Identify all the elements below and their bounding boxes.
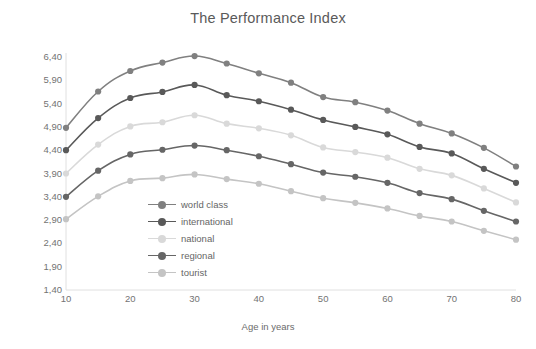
data-point	[352, 200, 358, 206]
data-point	[95, 168, 101, 174]
data-point	[416, 190, 422, 196]
data-point	[352, 99, 358, 105]
data-point	[288, 132, 294, 138]
data-point	[256, 98, 262, 104]
data-point	[95, 88, 101, 94]
data-point	[95, 193, 101, 199]
data-point	[481, 208, 487, 214]
data-point	[481, 145, 487, 151]
data-point	[63, 147, 69, 153]
data-point	[256, 125, 262, 131]
series-tourist	[63, 171, 519, 242]
data-point	[159, 175, 165, 181]
data-point	[288, 161, 294, 167]
data-point	[513, 180, 519, 186]
data-point	[127, 123, 133, 129]
legend-swatch-icon	[148, 199, 176, 211]
data-point	[224, 147, 230, 153]
data-point	[191, 171, 197, 177]
data-point	[513, 218, 519, 224]
data-point	[481, 166, 487, 172]
legend-label: regional	[176, 250, 215, 261]
legend-item-international[interactable]: international	[148, 213, 233, 230]
legend-label: world class	[176, 199, 228, 210]
data-point	[384, 155, 390, 161]
data-point	[320, 117, 326, 123]
legend-swatch-icon	[148, 233, 176, 245]
legend-swatch-icon	[148, 250, 176, 262]
data-point	[256, 70, 262, 76]
data-point	[384, 180, 390, 186]
legend-dot-icon	[158, 269, 166, 277]
legend-label: tourist	[176, 267, 207, 278]
data-point	[481, 228, 487, 234]
data-point	[513, 163, 519, 169]
data-point	[416, 121, 422, 127]
data-point	[288, 80, 294, 86]
legend-dot-icon	[158, 218, 166, 226]
data-point	[384, 131, 390, 137]
data-point	[320, 169, 326, 175]
data-point	[513, 237, 519, 243]
data-point	[224, 121, 230, 127]
data-point	[224, 92, 230, 98]
data-point	[449, 172, 455, 178]
performance-index-chart: The Performance Index FTP in watts/kg Ag…	[0, 0, 536, 349]
data-point	[191, 142, 197, 148]
data-point	[95, 142, 101, 148]
data-point	[159, 59, 165, 65]
data-point	[191, 53, 197, 59]
data-point	[416, 166, 422, 172]
legend-item-national[interactable]: national	[148, 230, 233, 247]
data-point	[288, 188, 294, 194]
legend-label: international	[176, 216, 233, 227]
data-point	[63, 194, 69, 200]
data-point	[224, 60, 230, 66]
data-point	[384, 107, 390, 113]
data-point	[127, 151, 133, 157]
legend-dot-icon	[158, 201, 166, 209]
legend-swatch-icon	[148, 216, 176, 228]
legend-dot-icon	[158, 252, 166, 260]
data-point	[449, 130, 455, 136]
data-point	[224, 176, 230, 182]
data-point	[449, 218, 455, 224]
data-point	[352, 124, 358, 130]
data-point	[288, 107, 294, 113]
data-point	[449, 150, 455, 156]
data-point	[384, 205, 390, 211]
data-point	[63, 216, 69, 222]
legend-item-regional[interactable]: regional	[148, 247, 233, 264]
data-point	[352, 149, 358, 155]
legend-item-world-class[interactable]: world class	[148, 196, 233, 213]
legend-dot-icon	[158, 235, 166, 243]
series-line	[66, 146, 516, 222]
data-point	[320, 94, 326, 100]
data-point	[416, 213, 422, 219]
data-point	[256, 181, 262, 187]
data-point	[256, 153, 262, 159]
data-point	[191, 82, 197, 88]
series-line	[66, 174, 516, 239]
data-point	[320, 195, 326, 201]
plot-area	[0, 0, 536, 349]
data-point	[513, 199, 519, 205]
data-point	[127, 68, 133, 74]
data-point	[416, 144, 422, 150]
data-point	[449, 196, 455, 202]
data-point	[127, 95, 133, 101]
data-point	[95, 115, 101, 121]
data-point	[159, 147, 165, 153]
data-point	[63, 170, 69, 176]
data-point	[320, 144, 326, 150]
chart-legend: world classinternationalnationalregional…	[148, 196, 233, 281]
legend-item-tourist[interactable]: tourist	[148, 264, 233, 281]
data-point	[191, 112, 197, 118]
data-point	[63, 125, 69, 131]
data-point	[159, 119, 165, 125]
data-point	[352, 174, 358, 180]
data-point	[159, 89, 165, 95]
legend-swatch-icon	[148, 267, 176, 279]
data-point	[481, 185, 487, 191]
legend-label: national	[176, 233, 214, 244]
